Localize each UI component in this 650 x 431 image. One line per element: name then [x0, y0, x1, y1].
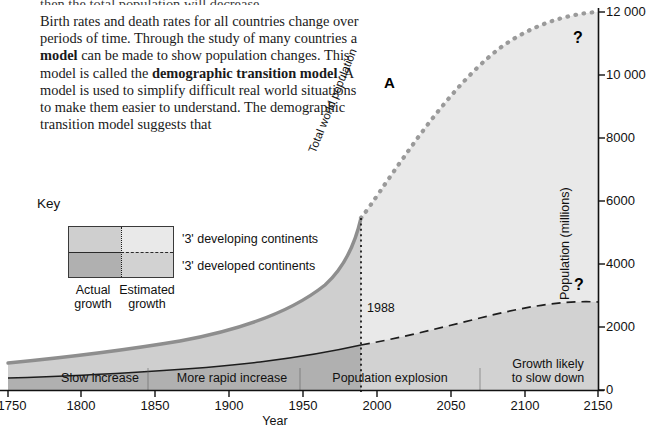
key-column-estimated-line1: Estimated	[119, 283, 175, 297]
key-column-label-actual: Actual growth	[62, 283, 124, 311]
phase-label-more-rapid-increase: More rapid increase	[152, 372, 312, 386]
key-swatch-developing-actual	[69, 227, 121, 252]
key-column-actual-line2: growth	[74, 297, 112, 311]
x-tick-1950: 1950	[280, 398, 326, 413]
key-label-developing: '3' developing continents	[182, 232, 318, 246]
y-tick-8000: 8000	[606, 130, 635, 145]
key-divider-dashed-line	[121, 252, 173, 253]
key-divider-dotted-line	[121, 227, 122, 277]
x-tick-1850: 1850	[132, 398, 178, 413]
y-tick-4000: 4000	[606, 256, 635, 271]
key-swatch-grid	[68, 226, 174, 278]
key-swatch-developing-estimated	[121, 227, 173, 252]
phase-label-line2: to slow down	[512, 371, 584, 385]
figure-marker-a: A	[384, 74, 395, 91]
y-tick-6000: 6000	[606, 193, 635, 208]
x-tick-1900: 1900	[206, 398, 252, 413]
key-title: Key	[37, 196, 260, 211]
y-tick-12000: 12 000	[606, 4, 646, 19]
phase-label-slow-increase: Slow increase	[30, 372, 170, 386]
x-tick-1750: 1750	[0, 398, 35, 413]
chart-key: Key '3' developing continents '3' develo…	[30, 196, 260, 220]
phase-label-population-explosion: Population explosion	[305, 372, 475, 386]
y-tick-10000: 10 000	[606, 67, 646, 82]
key-divider-solid-line	[69, 252, 121, 253]
key-label-developed: '3' developed continents	[182, 259, 315, 273]
key-column-label-estimated: Estimated growth	[116, 283, 178, 311]
x-tick-2050: 2050	[428, 398, 474, 413]
x-tick-2100: 2100	[502, 398, 548, 413]
key-swatch-developed-estimated	[121, 252, 173, 277]
x-tick-2150: 2150	[575, 398, 621, 413]
x-axis-title-text: Year	[262, 414, 287, 428]
y-tick-0: 0	[606, 382, 613, 397]
key-swatch-developed-actual	[69, 252, 121, 277]
uncertainty-marker-developed: ?	[574, 276, 584, 294]
figure-page: then the total population will decrease.…	[0, 0, 650, 431]
y-tick-2000: 2000	[606, 319, 635, 334]
key-column-actual-line1: Actual	[76, 283, 111, 297]
phase-label-line1: Growth likely	[512, 357, 584, 371]
x-tick-1800: 1800	[58, 398, 104, 413]
phase-label-growth-slow-down: Growth likely to slow down	[500, 358, 596, 385]
uncertainty-marker-total: ?	[573, 29, 583, 47]
key-column-estimated-line2: growth	[128, 297, 166, 311]
year-1988-label: 1988	[367, 301, 395, 315]
x-tick-2000: 2000	[354, 398, 400, 413]
y-axis-title: Population (millions)	[558, 187, 572, 300]
x-axis-title: Year	[0, 414, 650, 428]
